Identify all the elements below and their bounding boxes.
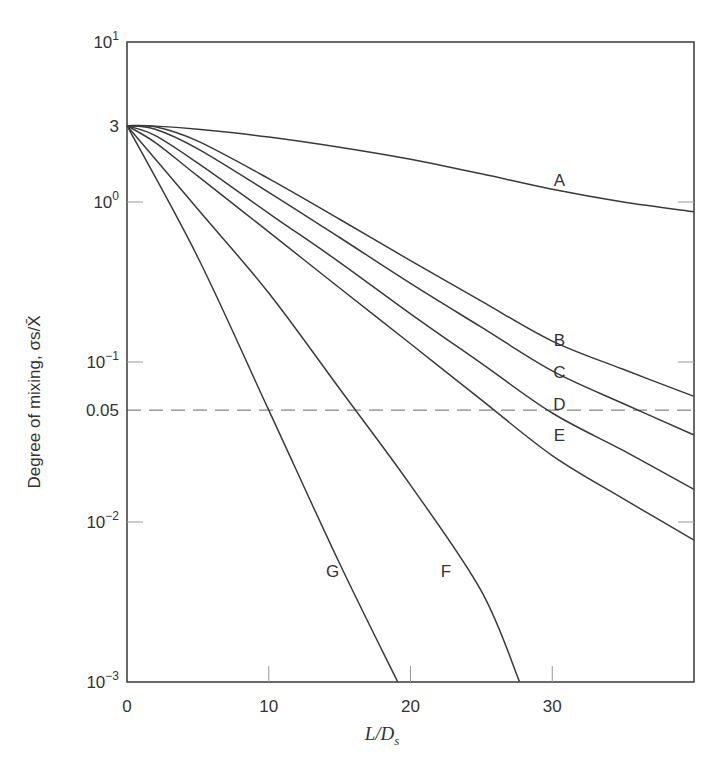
curve-label-A: A: [554, 171, 566, 190]
x-axis-title-subscript: s: [394, 733, 399, 748]
curve-label-B: B: [554, 331, 565, 350]
y-tick-label: 0.05: [86, 401, 119, 420]
y-axis-title: Degree of mixing, σs/X̄: [25, 315, 44, 488]
curve-label-E: E: [554, 426, 565, 445]
curve-D: [127, 126, 694, 490]
y-tick-label: 10−1: [86, 349, 119, 372]
curve-E: [127, 126, 694, 541]
x-axis-title-main: L/D: [364, 723, 395, 744]
curve-C: [127, 126, 694, 435]
curve-label-D: D: [553, 395, 565, 414]
curve-label-F: F: [441, 562, 451, 581]
x-tick-label: 10: [259, 697, 278, 716]
y-tick-label: 100: [93, 189, 119, 212]
plot-border: [127, 42, 694, 682]
mixing-chart: 0102030101310010−10.0510−210−3 ABCDEFG D…: [0, 0, 727, 768]
axis-ticks: [127, 202, 694, 682]
curve-A: [127, 126, 694, 212]
x-tick-label: 0: [122, 697, 131, 716]
y-tick-label: 101: [93, 29, 119, 52]
curve-B: [127, 125, 694, 396]
tick-labels: 0102030101310010−10.0510−210−3: [86, 29, 562, 716]
x-tick-label: 20: [401, 697, 420, 716]
curve-label-G: G: [326, 562, 339, 581]
x-axis-title: L/Ds: [364, 723, 400, 748]
curve-label-C: C: [553, 363, 565, 382]
y-tick-label: 10−2: [86, 509, 119, 532]
y-tick-label: 3: [110, 117, 119, 136]
plot-frame: [127, 42, 694, 682]
x-tick-label: 30: [543, 697, 562, 716]
y-tick-label: 10−3: [86, 669, 119, 692]
curves: [127, 125, 694, 682]
